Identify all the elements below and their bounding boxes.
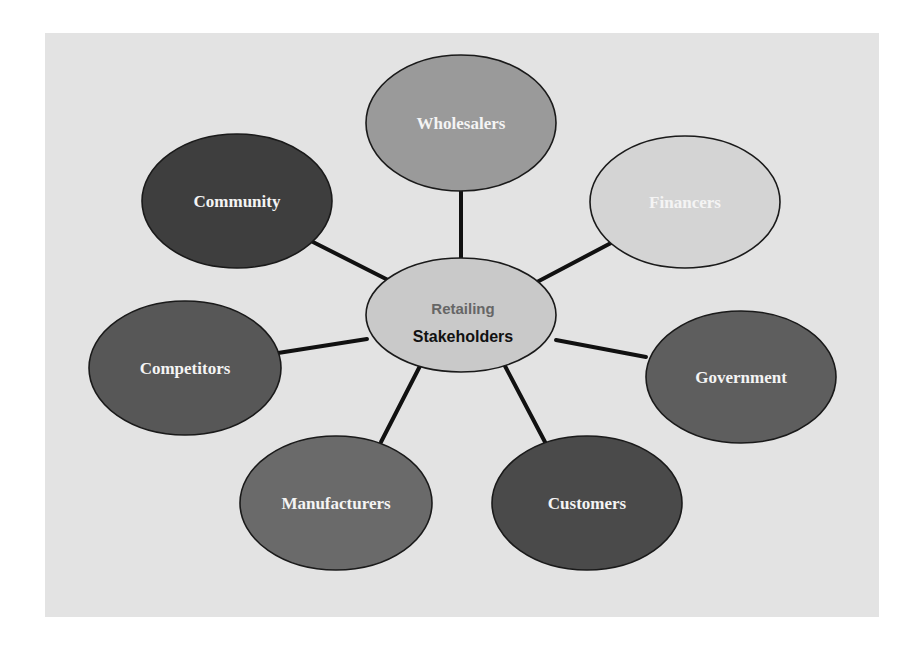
node-competitors: Competitors	[89, 301, 281, 435]
connector-customers	[505, 366, 545, 442]
label-customers: Customers	[548, 494, 627, 513]
label-community: Community	[194, 192, 281, 211]
node-government: Government	[646, 311, 836, 443]
node-financers: Financers	[590, 136, 780, 268]
center-label-stakeholders: Stakeholders	[413, 328, 514, 345]
center-label-retailing: Retailing	[431, 300, 494, 317]
label-manufacturers: Manufacturers	[281, 494, 391, 513]
connector-financers	[537, 243, 611, 282]
stakeholder-diagram: Wholesalers Financers Government Custome…	[0, 0, 915, 654]
connector-community	[313, 242, 388, 280]
label-wholesalers: Wholesalers	[417, 114, 506, 133]
connector-manufacturers	[381, 366, 420, 442]
node-manufacturers: Manufacturers	[240, 436, 432, 570]
connector-competitors	[278, 339, 367, 353]
connector-government	[556, 340, 646, 357]
node-community: Community	[142, 134, 332, 268]
label-financers: Financers	[649, 193, 721, 212]
label-government: Government	[695, 368, 787, 387]
label-competitors: Competitors	[140, 359, 231, 378]
node-center: Retailing Stakeholders	[366, 258, 556, 372]
node-wholesalers: Wholesalers	[366, 55, 556, 191]
node-customers: Customers	[492, 436, 682, 570]
